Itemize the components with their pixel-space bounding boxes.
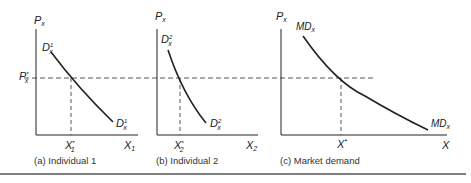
panel-caption: (b) Individual 2 — [156, 155, 218, 166]
quantity-label: X*2 — [173, 139, 184, 153]
curve-bottom-label: D2x — [210, 117, 222, 131]
x-axis-label: X1 — [123, 139, 135, 152]
demand-curve — [51, 52, 113, 122]
y-axis-label: Px — [34, 14, 45, 27]
y-axis-label: Px — [155, 10, 166, 23]
demand-curve — [168, 50, 206, 123]
curve-bottom-label: MDx — [431, 118, 451, 130]
y-axis-label: Px — [276, 10, 287, 23]
curve-top-label: D1x — [42, 41, 53, 55]
equilibrium-price-label: P*x — [19, 70, 29, 84]
panel-individual-2: Px D2x D2x X*2 X2 (b) Individual 2 — [155, 10, 258, 166]
x-axis-label: X2 — [245, 139, 257, 152]
market-demand-diagram: Px D1x D1x P*x X*1 X1 (a) Individual 1 P… — [0, 0, 471, 183]
panel-market-demand: Px MDx MDx X* X (c) Market demand — [276, 10, 451, 166]
curve-top-label: D2x — [161, 33, 173, 47]
panel-caption: (a) Individual 1 — [34, 155, 96, 166]
panel-individual-1: Px D1x D1x P*x X*1 X1 (a) Individual 1 — [19, 14, 138, 166]
curve-bottom-label: D1x — [116, 117, 127, 131]
quantity-label: X*1 — [64, 139, 75, 153]
x-axis-label: X — [441, 139, 450, 151]
curve-top-label: MDx — [296, 21, 316, 33]
panel-caption: (c) Market demand — [280, 155, 360, 166]
quantity-label: X* — [336, 138, 347, 150]
market-demand-curve — [303, 36, 428, 130]
